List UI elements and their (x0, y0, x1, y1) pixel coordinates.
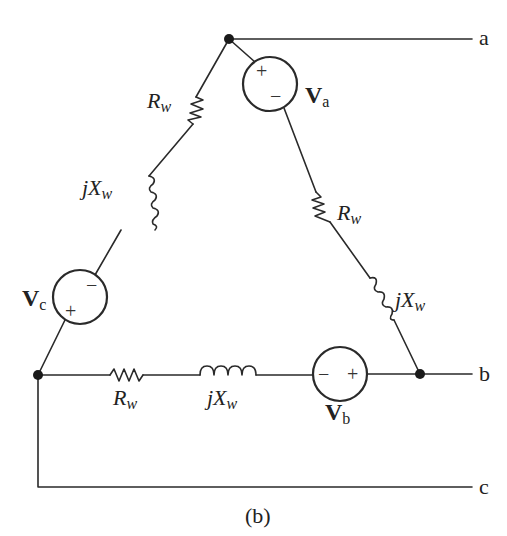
left-resistor-label: Rw (146, 88, 171, 115)
wire-right-3 (330, 222, 370, 278)
vc-minus-sign: − (86, 274, 97, 296)
resistor-right (312, 192, 330, 222)
delta-source-circuit: − + + − − + a b c Va Vc Vb Rw jXw Rw jXw… (0, 0, 507, 536)
bottom-resistor-label: Rw (112, 385, 137, 412)
terminal-label-b: b (479, 361, 490, 386)
figure-caption: (b) (245, 503, 271, 528)
wire-right-4 (394, 320, 420, 374)
terminal-label-c: c (479, 474, 489, 499)
wire-right-1 (229, 39, 255, 62)
vb-label: Vb (325, 399, 350, 427)
node-b (415, 369, 425, 379)
voltage-source-vc (53, 270, 107, 324)
resistor-bottom (110, 369, 143, 381)
wire-left-1 (196, 39, 229, 97)
va-plus-sign: + (256, 60, 267, 82)
va-minus-sign: − (270, 85, 281, 107)
left-inductor-label: jXw (79, 175, 113, 202)
inductor-left (149, 176, 158, 230)
bottom-inductor-label: jXw (204, 385, 238, 412)
right-inductor-label: jXw (392, 287, 426, 314)
right-resistor-label: Rw (336, 200, 361, 227)
wire-right-2 (284, 108, 316, 192)
inductor-right (370, 278, 394, 320)
node-c (33, 370, 43, 380)
vc-plus-sign: + (65, 300, 76, 322)
va-label: Va (305, 82, 329, 110)
wire-left-3 (95, 230, 121, 275)
wire-left-2 (149, 124, 193, 176)
resistor-left (188, 97, 203, 124)
wire-terminal-c (38, 375, 472, 487)
vb-minus-sign: − (318, 363, 329, 385)
wire-left-4 (38, 320, 65, 375)
vc-label: Vc (22, 285, 46, 313)
vb-plus-sign: + (347, 363, 358, 385)
node-a (224, 34, 234, 44)
terminal-label-a: a (479, 25, 489, 50)
inductor-bottom (200, 366, 256, 375)
